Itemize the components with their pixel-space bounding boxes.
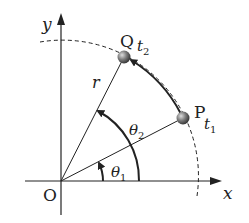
theta2-sub: 2 — [138, 130, 144, 141]
x-axis-label: x — [223, 183, 233, 203]
y-axis — [57, 13, 65, 215]
motion-arrow — [131, 60, 181, 114]
point-q-label: Q — [120, 31, 134, 51]
q-time-sub: 2 — [143, 46, 149, 57]
theta1-symbol: θ — [111, 163, 120, 181]
theta1-sub: 1 — [120, 172, 126, 183]
point-q-ball — [118, 51, 131, 64]
radius-label: r — [92, 73, 101, 92]
circular-motion-diagram: y x O Q t 2 P t 1 r θ 2 θ 1 — [0, 0, 249, 223]
y-axis-label: y — [41, 14, 52, 34]
point-p-ball — [177, 112, 190, 125]
theta1-arc — [99, 163, 103, 181]
p-time-sub: 1 — [210, 124, 216, 135]
theta2-symbol: θ — [129, 121, 138, 139]
origin-label: O — [43, 185, 57, 205]
